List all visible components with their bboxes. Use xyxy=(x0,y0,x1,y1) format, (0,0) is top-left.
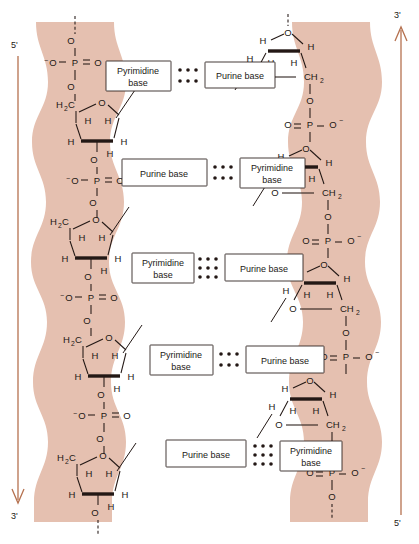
svg-text:H: H xyxy=(105,115,112,126)
left-strand-arrow: 5' 3' xyxy=(11,40,24,521)
svg-text:O: O xyxy=(306,95,313,106)
base-pair-2: Purine base Pyrimidine base xyxy=(122,158,305,188)
svg-text:2: 2 xyxy=(320,77,324,84)
svg-text:H: H xyxy=(56,99,63,110)
svg-text:H: H xyxy=(106,468,113,479)
svg-text:O: O xyxy=(78,410,85,421)
left-strand-ribbon xyxy=(31,22,126,522)
svg-text:O: O xyxy=(96,433,103,444)
base-pair-5: Purine base Pyrimidine base xyxy=(166,440,342,471)
svg-text:O: O xyxy=(71,175,78,186)
svg-text:O: O xyxy=(89,197,96,208)
svg-text:O: O xyxy=(99,450,106,461)
svg-text:O: O xyxy=(67,35,74,46)
svg-text:H: H xyxy=(121,136,128,147)
svg-text:H: H xyxy=(92,350,99,361)
svg-text:H: H xyxy=(269,401,276,412)
svg-text:O: O xyxy=(328,491,335,502)
svg-text:P: P xyxy=(94,175,100,186)
svg-text:−: − xyxy=(44,57,48,64)
svg-text:H: H xyxy=(68,136,75,147)
base-pair-4: Pyrimidine base Purine base xyxy=(150,345,324,375)
base-label-left-4: Pyrimidine xyxy=(160,350,202,360)
svg-text:CH: CH xyxy=(322,187,336,198)
svg-text:CH: CH xyxy=(340,303,354,314)
svg-text:H: H xyxy=(69,489,76,500)
svg-text:H: H xyxy=(101,265,108,276)
svg-text:−: − xyxy=(73,410,77,417)
base-label-left-2: Purine base xyxy=(140,169,188,179)
svg-text:2: 2 xyxy=(342,425,346,432)
svg-text:H: H xyxy=(128,371,135,382)
svg-text:P: P xyxy=(88,292,94,303)
svg-text:H: H xyxy=(115,253,122,264)
svg-text:O: O xyxy=(84,271,91,282)
base-label-left-3: Pyrimidine xyxy=(142,258,184,268)
base-label-left-4b: base xyxy=(171,362,191,372)
svg-text:H: H xyxy=(63,334,70,345)
left-bottom-end-label: 3' xyxy=(11,511,18,521)
svg-text:O: O xyxy=(94,57,101,68)
svg-text:O: O xyxy=(351,467,358,478)
svg-text:2: 2 xyxy=(338,193,342,200)
svg-text:O: O xyxy=(65,292,72,303)
hydrogen-bonds-1 xyxy=(178,68,198,83)
svg-text:C: C xyxy=(68,99,75,110)
base-label-left-3b: base xyxy=(153,270,173,280)
svg-text:H: H xyxy=(260,35,267,46)
hydrogen-bonds-2 xyxy=(213,165,233,180)
right-strand-arrow: 3' 5' xyxy=(394,10,407,528)
svg-text:O: O xyxy=(302,235,309,246)
svg-text:O: O xyxy=(275,419,282,430)
base-label-right-2: Pyrimidine xyxy=(251,163,293,173)
svg-text:H: H xyxy=(57,452,64,463)
svg-text:O: O xyxy=(324,211,331,222)
base-label-left-5: Purine base xyxy=(182,450,230,460)
svg-text:H: H xyxy=(283,285,290,296)
svg-text:O: O xyxy=(284,119,291,130)
base-label-left-1b: base xyxy=(128,78,148,88)
svg-text:O: O xyxy=(91,507,98,518)
svg-text:−: − xyxy=(66,175,70,182)
base-pair-1: Pyrimidine base Purine base xyxy=(106,61,275,91)
svg-text:H: H xyxy=(290,405,297,416)
svg-text:2: 2 xyxy=(356,309,360,316)
svg-text:−: − xyxy=(357,233,361,240)
svg-text:−: − xyxy=(60,292,64,299)
svg-text:P: P xyxy=(343,351,349,362)
svg-text:O: O xyxy=(67,81,74,92)
svg-text:O: O xyxy=(271,187,278,198)
svg-text:O: O xyxy=(329,119,336,130)
svg-text:−: − xyxy=(339,117,343,124)
svg-text:O: O xyxy=(83,315,90,326)
svg-text:H: H xyxy=(112,350,119,361)
svg-text:O: O xyxy=(90,154,97,165)
dna-diagram: 5' 3' 3' 5' O − O P O O H 2 C O H xyxy=(0,0,419,544)
svg-text:H: H xyxy=(344,273,351,284)
base-label-right-1: Purine base xyxy=(216,71,264,81)
svg-text:O: O xyxy=(105,332,112,343)
base-label-left-1: Pyrimidine xyxy=(117,66,159,76)
svg-text:−: − xyxy=(375,349,379,356)
svg-text:H: H xyxy=(86,468,93,479)
svg-text:H: H xyxy=(330,389,337,400)
svg-text:H: H xyxy=(313,405,320,416)
svg-text:P: P xyxy=(325,235,331,246)
svg-text:P: P xyxy=(307,119,313,130)
svg-text:O: O xyxy=(347,235,354,246)
svg-text:H: H xyxy=(50,216,57,227)
svg-text:H: H xyxy=(282,383,289,394)
svg-text:CH: CH xyxy=(304,71,318,82)
svg-text:H: H xyxy=(85,115,92,126)
base-label-right-3: Purine base xyxy=(240,264,288,274)
svg-text:H: H xyxy=(327,289,334,300)
svg-text:O: O xyxy=(110,292,117,303)
svg-text:−: − xyxy=(361,465,365,472)
svg-text:H: H xyxy=(107,148,114,159)
svg-text:C: C xyxy=(69,452,76,463)
svg-text:H: H xyxy=(309,173,316,184)
hydrogen-bonds-3 xyxy=(198,257,218,279)
svg-text:H: H xyxy=(62,253,69,264)
svg-text:O: O xyxy=(49,57,56,68)
svg-text:H: H xyxy=(122,489,129,500)
